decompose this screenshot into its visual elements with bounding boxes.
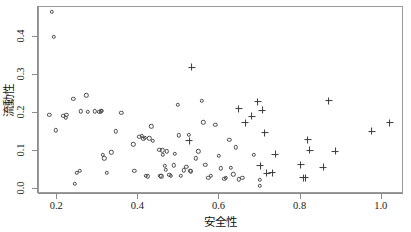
y-axis-label: 流動性 [0, 84, 16, 117]
data-point-circle [71, 96, 75, 100]
data-point-circle [146, 174, 150, 178]
data-point-circle [175, 102, 179, 106]
data-point-circle [199, 99, 203, 103]
data-point-plus [248, 113, 255, 120]
data-point-circle [132, 169, 136, 173]
data-point-circle [189, 169, 193, 173]
data-point-plus [257, 162, 264, 169]
data-points-layer [39, 7, 402, 192]
data-point-circle [240, 176, 244, 180]
data-point-plus [242, 119, 249, 126]
data-point-circle [231, 172, 235, 176]
x-tick-mark [218, 194, 219, 199]
data-point-plus [254, 98, 261, 105]
data-point-circle [213, 123, 217, 127]
scatter-chart: 0.20.40.60.81.0 0.00.10.20.30.4 安全性 流動性 [0, 0, 411, 232]
data-point-plus [235, 105, 242, 112]
data-point-plus [269, 169, 276, 176]
x-tick-label: 0.6 [212, 200, 225, 211]
data-point-plus [386, 119, 393, 126]
data-point-circle [182, 168, 186, 172]
data-point-circle [169, 173, 173, 177]
data-point-circle [79, 109, 83, 113]
data-point-plus [320, 164, 327, 171]
y-axis-line [37, 6, 38, 193]
data-point-circle [251, 153, 255, 157]
data-point-circle [47, 112, 51, 116]
data-point-circle [50, 10, 54, 14]
data-point-circle [151, 139, 155, 143]
y-tick-mark [32, 188, 37, 189]
data-point-circle [100, 109, 104, 113]
y-tick-mark [32, 36, 37, 37]
data-point-circle [179, 173, 183, 177]
data-point-plus [186, 137, 193, 144]
data-point-circle [84, 93, 88, 97]
data-point-circle [258, 177, 262, 181]
data-point-circle [53, 128, 57, 132]
data-point-circle [78, 169, 82, 173]
data-point-circle [92, 109, 96, 113]
data-point-circle [64, 115, 68, 119]
data-point-plus [304, 136, 311, 143]
y-tick-mark [32, 150, 37, 151]
y-tick-label: 0.4 [15, 29, 26, 42]
data-point-plus [306, 147, 313, 154]
y-tick-label: 0.3 [15, 67, 26, 80]
data-point-plus [325, 97, 332, 104]
data-point-circle [193, 156, 197, 160]
y-tick-mark [32, 74, 37, 75]
data-point-plus [297, 161, 304, 168]
data-point-circle [52, 35, 56, 39]
x-tick-mark [56, 194, 57, 199]
x-tick-label: 0.8 [293, 200, 306, 211]
x-tick-mark [381, 194, 382, 199]
x-tick-label: 0.4 [131, 200, 144, 211]
x-axis-label: 安全性 [204, 213, 237, 229]
data-point-circle [216, 154, 220, 158]
data-point-circle [184, 164, 188, 168]
data-point-circle [173, 151, 177, 155]
x-tick-label: 0.2 [50, 200, 63, 211]
data-point-circle [196, 149, 200, 153]
data-point-circle [159, 174, 163, 178]
data-point-circle [109, 150, 113, 154]
data-point-circle [131, 142, 135, 146]
data-point-circle [233, 145, 237, 149]
data-point-circle [201, 120, 205, 124]
x-tick-label: 1.0 [374, 200, 387, 211]
data-point-circle [227, 138, 231, 142]
data-point-plus [368, 128, 375, 135]
data-point-circle [114, 129, 118, 133]
data-point-plus [302, 174, 309, 181]
data-point-circle [119, 111, 123, 115]
data-point-circle [86, 110, 90, 114]
data-point-circle [149, 124, 153, 128]
x-tick-mark [300, 194, 301, 199]
data-point-circle [102, 156, 106, 160]
x-tick-mark [137, 194, 138, 199]
plot-area [38, 6, 403, 193]
data-point-plus [332, 148, 339, 155]
data-point-circle [105, 170, 109, 174]
data-point-plus [188, 64, 195, 71]
x-axis-line [38, 193, 403, 194]
data-point-circle [203, 163, 207, 167]
data-point-circle [161, 153, 165, 157]
data-point-circle [219, 166, 223, 170]
data-point-circle [72, 182, 76, 186]
y-tick-mark [32, 112, 37, 113]
y-tick-label: 0.1 [15, 144, 26, 157]
data-point-plus [259, 107, 266, 114]
y-tick-label: 0.2 [15, 106, 26, 119]
data-point-plus [261, 129, 268, 136]
data-point-circle [229, 166, 233, 170]
data-point-circle [208, 173, 212, 177]
data-point-circle [258, 183, 262, 187]
data-point-plus [272, 151, 279, 158]
data-point-circle [171, 163, 175, 167]
data-point-circle [164, 167, 168, 171]
data-point-circle [224, 176, 228, 180]
data-point-circle [165, 149, 169, 153]
data-point-circle [177, 133, 181, 137]
